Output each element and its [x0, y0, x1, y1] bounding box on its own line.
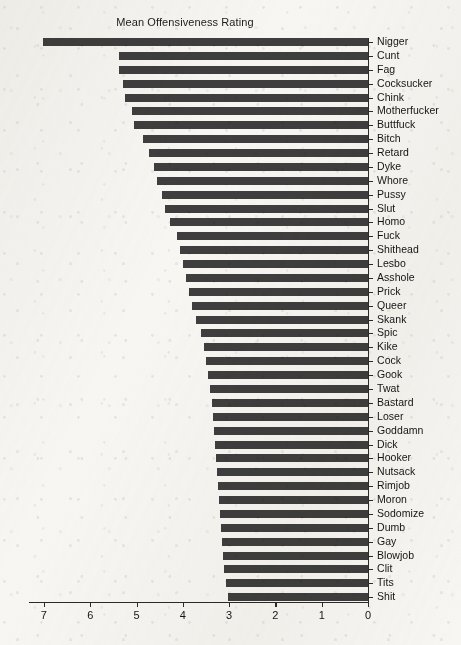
bar-row: Slut — [0, 205, 461, 214]
bar-label: Fuck — [377, 229, 400, 241]
category-tick — [369, 125, 373, 126]
x-axis-tick — [137, 602, 138, 607]
bar-label: Skank — [377, 313, 406, 325]
bar-row: Hooker — [0, 454, 461, 463]
category-tick — [369, 56, 373, 57]
bar-label: Kike — [377, 340, 398, 352]
x-axis-tick-label: 1 — [319, 609, 325, 621]
chart-title: Mean Offensiveness Rating — [0, 16, 370, 28]
bar — [228, 593, 368, 601]
bar-row: Clit — [0, 565, 461, 574]
bar-label: Fag — [377, 63, 395, 75]
bar-label: Buttfuck — [377, 118, 415, 130]
x-axis-tick — [183, 602, 184, 607]
bar — [226, 579, 368, 587]
bar-label: Rimjob — [377, 479, 410, 491]
bar — [217, 468, 368, 476]
bar-row: Dyke — [0, 163, 461, 172]
bar-row: Dick — [0, 441, 461, 450]
bar-row: Nigger — [0, 38, 461, 47]
bar — [213, 413, 368, 421]
category-tick — [369, 153, 373, 154]
bar-row: Homo — [0, 218, 461, 227]
bar-row: Cock — [0, 357, 461, 366]
bar-label: Prick — [377, 285, 401, 297]
category-tick — [369, 500, 373, 501]
offensiveness-bar-chart: Mean Offensiveness Rating NiggerCuntFagC… — [0, 0, 461, 645]
bar-label: Queer — [377, 299, 406, 311]
category-tick — [369, 431, 373, 432]
bar-row: Skank — [0, 316, 461, 325]
category-tick — [369, 236, 373, 237]
category-tick — [369, 389, 373, 390]
bar-row: Shit — [0, 593, 461, 602]
x-axis-tick — [322, 602, 323, 607]
bar-label: Shit — [377, 590, 395, 602]
category-tick — [369, 306, 373, 307]
bar-row: Spic — [0, 329, 461, 338]
x-axis-tick-label: 5 — [133, 609, 139, 621]
x-axis-tick — [44, 602, 45, 607]
category-tick — [369, 195, 373, 196]
bar-label: Moron — [377, 493, 407, 505]
bar-label: Loser — [377, 410, 404, 422]
bar — [192, 302, 368, 310]
category-tick — [369, 403, 373, 404]
bar-label: Gook — [377, 368, 402, 380]
bar-row: Queer — [0, 302, 461, 311]
category-tick — [369, 361, 373, 362]
bar-label: Shithead — [377, 243, 419, 255]
bar-label: Bastard — [377, 396, 414, 408]
x-axis-tick — [275, 602, 276, 607]
category-tick — [369, 292, 373, 293]
bar — [157, 177, 368, 185]
bar — [219, 496, 368, 504]
bar — [134, 121, 368, 129]
y-axis-spine — [368, 38, 369, 602]
bar-row: Goddamn — [0, 427, 461, 436]
bar-label: Dyke — [377, 160, 401, 172]
category-tick — [369, 333, 373, 334]
x-axis-tick — [368, 602, 369, 607]
bar-row: Buttfuck — [0, 121, 461, 130]
category-tick — [369, 583, 373, 584]
bar-row: Prick — [0, 288, 461, 297]
bar — [180, 246, 368, 254]
bar — [43, 38, 368, 46]
category-tick — [369, 264, 373, 265]
x-axis-tick-label: 4 — [180, 609, 186, 621]
category-tick — [369, 181, 373, 182]
category-tick — [369, 222, 373, 223]
bar — [215, 441, 368, 449]
x-axis-tick — [90, 602, 91, 607]
bar-label: Retard — [377, 146, 409, 158]
plot-area: NiggerCuntFagCocksuckerChinkMotherfucker… — [0, 36, 461, 602]
bar-row: Gay — [0, 538, 461, 547]
category-tick — [369, 597, 373, 598]
category-tick — [369, 417, 373, 418]
bar-row: Bitch — [0, 135, 461, 144]
bar-row: Nutsack — [0, 468, 461, 477]
bar-row: Fag — [0, 66, 461, 75]
x-axis-tick-label: 7 — [41, 609, 47, 621]
bar — [165, 205, 368, 213]
bar-label: Homo — [377, 215, 405, 227]
x-axis-line — [29, 602, 369, 603]
category-tick — [369, 209, 373, 210]
bar-label: Dick — [377, 438, 398, 450]
bar-row: Dumb — [0, 524, 461, 533]
bar — [220, 510, 368, 518]
bar — [204, 343, 368, 351]
bar-label: Goddamn — [377, 424, 423, 436]
bar — [216, 454, 368, 462]
bar — [214, 427, 368, 435]
bar-label: Gay — [377, 535, 396, 547]
bar — [132, 107, 368, 115]
x-axis-tick — [229, 602, 230, 607]
bar-row: Motherfucker — [0, 107, 461, 116]
bar-label: Cock — [377, 354, 401, 366]
category-tick — [369, 320, 373, 321]
bar-row: Shithead — [0, 246, 461, 255]
bar — [221, 524, 368, 532]
bar-row: Lesbo — [0, 260, 461, 269]
